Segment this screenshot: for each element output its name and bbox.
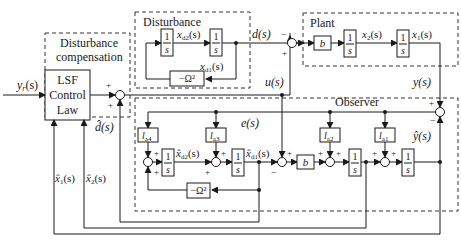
sign: + <box>391 148 396 158</box>
xhatd2-label: x̂d2(s) <box>175 147 200 161</box>
x2-label: x2(s) <box>361 28 382 42</box>
controller-label-3: Law <box>57 103 79 117</box>
y-label: y(s) <box>412 75 431 89</box>
observer-group-label: Observer <box>335 95 379 109</box>
error-bus-line <box>148 112 436 128</box>
sign: + <box>336 148 341 158</box>
integrator-num: 1 <box>353 151 358 162</box>
disturbance-group-label: Disturbance <box>143 15 201 29</box>
integrator-den: s <box>348 45 352 56</box>
integrator-den: s <box>406 164 410 175</box>
observer-sum-2 <box>326 158 335 167</box>
xhat1-label: x̂1(s) <box>54 172 75 186</box>
integrator-num: 1 <box>166 151 171 162</box>
omega-label: −Ω² <box>179 73 195 84</box>
xd2-label: xd2(s) <box>176 28 201 42</box>
integrator-den: s <box>165 44 169 55</box>
control-summing-junction <box>116 91 125 100</box>
compensation-label-2: compensation <box>56 50 123 64</box>
integrator-num: 1 <box>214 31 219 42</box>
sign: + <box>221 148 226 158</box>
observer-sum-1 <box>381 158 390 167</box>
integrator-num: 1 <box>236 151 241 162</box>
observer-sum-input <box>278 158 287 167</box>
integrator-den: s <box>236 164 240 175</box>
observer-sum-4 <box>144 158 153 167</box>
sign: + <box>154 148 159 158</box>
xd1-label: xd1(s) <box>199 60 224 74</box>
x1-label: x1(s) <box>411 28 432 42</box>
integrator-den: s <box>166 164 170 175</box>
yhat-label: ŷ(s) <box>412 129 431 143</box>
controller-label-2: Control <box>49 88 86 102</box>
xhat2-label: x̂2(s) <box>85 172 106 186</box>
sign: + <box>106 80 111 90</box>
d-label: d(s) <box>252 27 271 41</box>
sign: + <box>372 148 377 158</box>
sign: + <box>154 167 159 177</box>
sign: − <box>430 115 436 126</box>
e-label: e(s) <box>241 116 259 130</box>
sign: + <box>318 148 323 158</box>
xhatd1-label: x̂d1(s) <box>245 147 270 161</box>
integrator-den: s <box>401 45 405 56</box>
u-label: u(s) <box>265 75 284 89</box>
controller-label-1: LSF <box>57 73 78 87</box>
integrator-num: 1 <box>165 31 170 42</box>
sign: + <box>205 167 210 177</box>
gain-b-label: b <box>320 37 326 49</box>
integrator-num: 1 <box>401 32 406 43</box>
plant-group-label: Plant <box>310 16 335 30</box>
integrator-num: 1 <box>348 32 353 43</box>
sign: + <box>282 48 287 58</box>
integrator-den: s <box>353 164 357 175</box>
error-summing-junction <box>436 108 445 117</box>
compensation-label-1: Disturbance <box>60 36 118 50</box>
integrator-num: 1 <box>406 151 411 162</box>
sign: + <box>429 98 434 108</box>
yr-label: yr(s) <box>16 78 38 93</box>
block-diagram: Disturbance Plant Disturbance compensati… <box>0 0 461 240</box>
gain-b-label: b <box>303 156 309 168</box>
integrator-den: s <box>214 44 218 55</box>
sign: + <box>108 100 113 110</box>
sign: − <box>271 167 277 178</box>
plant-summing-junction <box>288 39 297 48</box>
sign: + <box>287 148 292 158</box>
dhat-label: d̂(s) <box>95 120 114 134</box>
sign: − <box>281 29 287 40</box>
observer-sum-3 <box>212 158 221 167</box>
omega-label: −Ω² <box>190 185 206 196</box>
